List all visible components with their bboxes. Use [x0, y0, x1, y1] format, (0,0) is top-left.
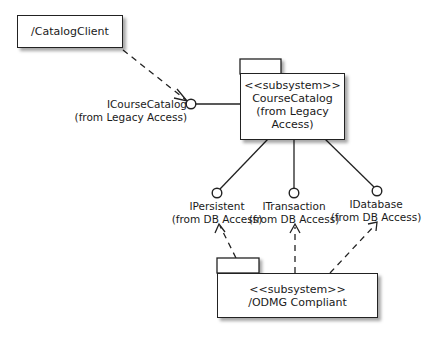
- dependency-odmg-to-idatabase: [330, 222, 377, 273]
- package-tab-odmg: [217, 258, 259, 273]
- odmg-subsystem[interactable]: <<subsystem>> /ODMG Compliant: [217, 273, 378, 318]
- interface-circle-icon: [289, 188, 299, 198]
- lollipop-idatabase: [325, 139, 382, 196]
- lollipop-itransaction: [289, 139, 299, 198]
- odmg-stereotype: <<subsystem>>: [218, 283, 377, 296]
- course-catalog-subsystem[interactable]: <<subsystem>> CourseCatalog (from Legacy…: [240, 73, 345, 140]
- idatabase-label: IDatabase (from DB Access): [326, 198, 426, 223]
- open-arrowhead-icon: [215, 224, 225, 233]
- icoursecatalog-label: ICourseCatalog (from Legacy Access): [70, 98, 187, 123]
- open-arrowhead-icon: [368, 222, 377, 231]
- course-catalog-stereotype: <<subsystem>>: [241, 79, 344, 92]
- lollipop-ipersistent: [212, 139, 268, 198]
- package-tab-course-catalog: [240, 59, 281, 74]
- dependency-client-to-icoursecatalog: [123, 50, 187, 101]
- interface-circle-icon: [212, 188, 222, 198]
- idatabase-name: IDatabase: [326, 198, 426, 211]
- idatabase-origin: (from DB Access): [326, 211, 426, 224]
- dependency-odmg-to-itransaction: [290, 224, 300, 273]
- dependency-odmg-to-ipersistent: [215, 224, 236, 258]
- catalog-client-label: /CatalogClient: [18, 25, 122, 38]
- course-catalog-name: CourseCatalog: [241, 92, 344, 105]
- interface-circle-icon: [372, 186, 382, 196]
- odmg-name: /ODMG Compliant: [218, 296, 377, 309]
- course-catalog-origin: (from Legacy Access): [241, 105, 344, 131]
- icoursecatalog-origin: (from Legacy Access): [70, 111, 187, 124]
- catalog-client-node[interactable]: /CatalogClient: [17, 15, 123, 48]
- interface-circle-icon: [186, 99, 196, 109]
- lollipop-icoursecatalog: [186, 99, 240, 109]
- icoursecatalog-name: ICourseCatalog: [70, 98, 187, 111]
